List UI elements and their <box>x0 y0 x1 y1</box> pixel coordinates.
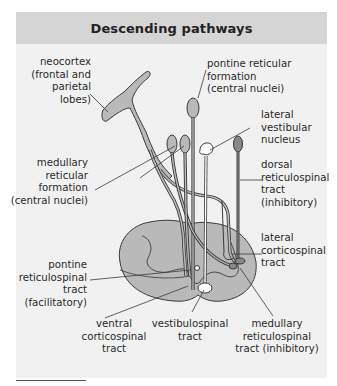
label-lateral-vestibular-nucleus: lateral vestibular nucleus <box>261 109 312 147</box>
neocortex-shape <box>102 71 172 180</box>
medullary-reticular-nucleus-2 <box>180 135 190 153</box>
label-medullary-reticulospinal-tract: medullary reticulospinal tract (inhibito… <box>232 318 322 356</box>
pontine-reticular-nucleus <box>187 98 199 118</box>
label-dorsal-reticulospinal-tract: dorsal reticulospinal tract (inhibitory) <box>261 159 329 209</box>
label-vestibulospinal-tract: vestibulospinal tract <box>150 318 230 343</box>
lateral-vestibular-nucleus <box>200 143 213 155</box>
label-medullary-reticular-formation: medullary reticular formation (central n… <box>10 157 88 207</box>
label-pontine-reticulospinal-tract: pontine reticulospinal tract (facilitato… <box>10 259 87 309</box>
label-lateral-corticospinal-tract: lateral corticospinal tract <box>261 232 326 270</box>
label-ventral-corticospinal-tract: ventral corticospinal tract <box>74 318 154 356</box>
label-neocortex: neocortex (frontal and parietal lobes) <box>16 56 91 106</box>
medullary-reticular-nucleus-1 <box>167 135 177 153</box>
dorsal-reticulospinal-nucleus <box>234 136 243 152</box>
label-pontine-reticular-formation: pontine reticular formation (central nuc… <box>207 58 291 96</box>
